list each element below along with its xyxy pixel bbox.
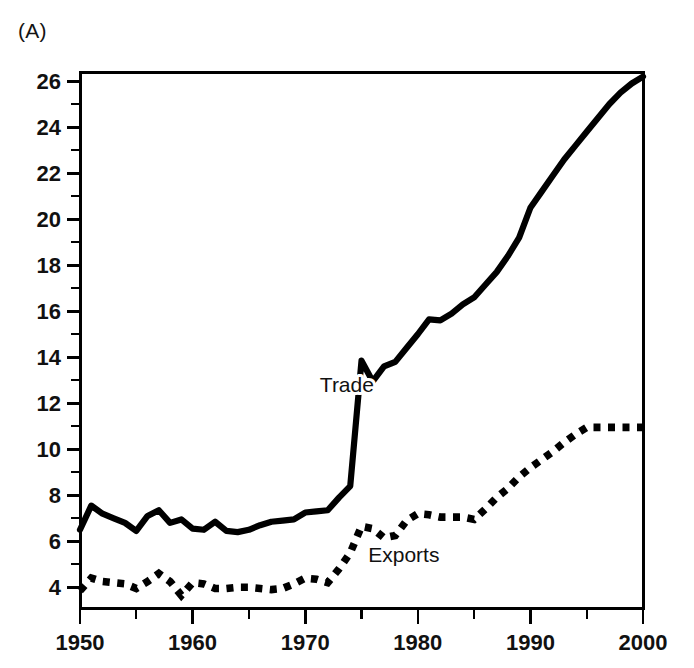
chart-figure: (A) 468101214161820222426 19501960197019… [0,0,694,668]
y-axis-tick-labels: 468101214161820222426 [37,69,62,600]
x-tick-label: 1960 [168,630,217,655]
x-axis-minor-ticks [136,608,586,619]
y-tick-label: 20 [37,207,61,232]
y-tick-label: 18 [37,253,61,278]
y-tick-label: 6 [49,529,61,554]
x-tick-label: 1980 [393,630,442,655]
y-tick-label: 26 [37,69,61,94]
y-tick-label: 4 [49,575,62,600]
series-label-exports: Exports [368,543,439,566]
x-axis-tick-labels: 195019601970198019902000 [56,630,668,655]
series-label-trade: Trade [320,373,374,396]
y-tick-label: 22 [37,161,61,186]
series-line-exports [80,427,643,595]
x-tick-label: 2000 [619,630,668,655]
series-line-trade [80,77,643,532]
y-tick-label: 14 [37,345,62,370]
y-tick-label: 16 [37,299,61,324]
x-tick-label: 1970 [281,630,330,655]
plot-frame [80,72,643,608]
x-tick-label: 1950 [56,630,105,655]
y-tick-label: 24 [37,115,62,140]
y-tick-label: 8 [49,483,61,508]
x-tick-label: 1990 [506,630,555,655]
data-series-group [80,77,643,596]
y-tick-label: 10 [37,437,61,462]
y-tick-label: 12 [37,391,61,416]
line-chart: 468101214161820222426 195019601970198019… [0,0,694,668]
